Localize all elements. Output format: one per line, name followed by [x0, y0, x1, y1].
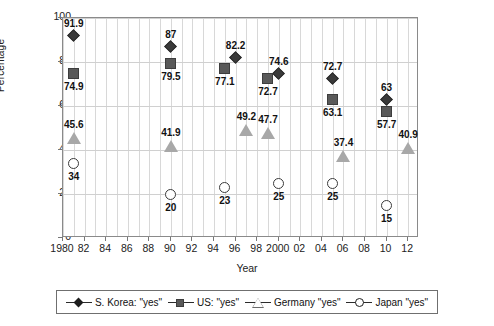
x-axis-tick-mark — [148, 237, 149, 241]
legend-label: Germany "yes" — [274, 297, 341, 308]
x-axis-tick-mark — [321, 237, 322, 241]
data-point-label: 45.6 — [59, 119, 89, 130]
gridline-vertical — [106, 18, 107, 236]
gridline-vertical — [257, 18, 258, 236]
square-marker-icon — [68, 68, 79, 79]
circle-marker-icon — [219, 182, 230, 193]
circle-marker-icon — [68, 158, 79, 169]
data-point-circle — [381, 200, 392, 211]
data-point-circle — [327, 178, 338, 189]
gridline-vertical — [300, 18, 301, 236]
gridline-vertical-minor — [139, 18, 140, 236]
triangle-marker-icon — [164, 140, 178, 152]
data-point-circle — [273, 178, 284, 189]
data-point-label: 20 — [156, 202, 186, 213]
x-axis-tick-mark — [62, 237, 63, 241]
data-point-square — [262, 73, 273, 84]
diamond-marker-icon — [229, 51, 242, 64]
legend-item-us[interactable]: US: "yes" — [168, 296, 239, 308]
legend-label: US: "yes" — [197, 297, 239, 308]
gridline-horizontal — [63, 18, 417, 19]
x-axis-title: Year — [0, 262, 494, 274]
legend-item-japan[interactable]: Japan "yes" — [346, 296, 428, 308]
data-point-label: 25 — [318, 191, 348, 202]
data-point-label: 82.2 — [221, 40, 251, 51]
diamond-marker-icon — [272, 68, 285, 81]
chart-legend: S. Korea: "yes" US: "yes" Germany "yes" … — [56, 290, 438, 314]
diamond-marker-icon — [380, 93, 393, 106]
x-axis-tick-mark — [84, 237, 85, 241]
legend-item-germany[interactable]: Germany "yes" — [245, 296, 341, 308]
data-point-label: 87 — [156, 29, 186, 40]
legend-item-s-korea[interactable]: S. Korea: "yes" — [66, 296, 162, 308]
data-point-diamond — [69, 31, 78, 40]
gridline-vertical-minor — [203, 18, 204, 236]
gridline-vertical — [343, 18, 344, 236]
data-point-label: 57.7 — [372, 119, 402, 130]
gridline-vertical-minor — [333, 18, 334, 236]
triangle-marker-icon — [336, 150, 350, 162]
x-axis-tick-mark — [213, 237, 214, 241]
data-point-label: 77.1 — [210, 76, 240, 87]
data-point-diamond — [231, 53, 240, 62]
x-axis-tick-mark — [278, 237, 279, 241]
data-point-label: 47.7 — [253, 114, 283, 125]
data-point-label: 37.4 — [328, 137, 358, 148]
x-axis-tick-mark — [256, 237, 257, 241]
data-point-label: 63 — [372, 82, 402, 93]
square-marker-icon — [165, 58, 176, 69]
data-point-diamond — [328, 74, 337, 83]
plot-area: 91.98782.274.672.76374.979.577.172.763.1… — [62, 17, 418, 237]
data-point-label: 41.9 — [156, 127, 186, 138]
y-axis-title: Percentage — [0, 39, 6, 92]
data-point-square — [165, 58, 176, 69]
square-marker-icon — [168, 296, 194, 308]
x-axis-tick-mark — [386, 237, 387, 241]
triangle-marker-icon — [401, 142, 415, 154]
legend-label: S. Korea: "yes" — [95, 297, 162, 308]
diamond-marker-icon — [66, 296, 92, 308]
circle-marker-icon — [273, 178, 284, 189]
data-point-label: 34 — [59, 171, 89, 182]
x-axis-tick-mark — [235, 237, 236, 241]
data-point-circle — [219, 182, 230, 193]
square-marker-icon — [381, 106, 392, 117]
diamond-marker-icon — [326, 72, 339, 85]
data-point-label: 74.6 — [264, 56, 294, 67]
x-axis-tick-mark — [170, 237, 171, 241]
triangle-marker-icon — [67, 132, 81, 144]
gridline-horizontal — [63, 194, 417, 195]
x-axis-tick-mark — [407, 237, 408, 241]
data-point-square — [219, 63, 230, 74]
square-marker-icon — [219, 63, 230, 74]
gridline-vertical-minor — [117, 18, 118, 236]
data-point-label: 74.9 — [59, 81, 89, 92]
data-point-label: 63.1 — [318, 107, 348, 118]
circle-marker-icon — [327, 178, 338, 189]
gridline-vertical-minor — [95, 18, 96, 236]
data-point-diamond — [166, 42, 175, 51]
data-point-square — [381, 106, 392, 117]
gridline-vertical — [192, 18, 193, 236]
square-marker-icon — [327, 94, 338, 105]
gridline-vertical-minor — [354, 18, 355, 236]
data-point-label: 79.5 — [156, 71, 186, 82]
gridline-horizontal — [63, 150, 417, 151]
circle-marker-icon — [346, 296, 372, 308]
circle-marker-icon — [165, 189, 176, 200]
gridline-vertical-minor — [290, 18, 291, 236]
circle-marker-icon — [381, 200, 392, 211]
x-axis-tick-mark — [364, 237, 365, 241]
x-axis-tick-mark — [299, 237, 300, 241]
diamond-marker-icon — [165, 40, 178, 53]
gridline-vertical — [149, 18, 150, 236]
legend-label: Japan "yes" — [375, 297, 428, 308]
gridline-horizontal — [63, 62, 417, 63]
diamond-marker-icon — [67, 29, 80, 42]
data-point-label: 15 — [372, 213, 402, 224]
data-point-label: 40.9 — [393, 129, 423, 140]
gridline-horizontal — [63, 106, 417, 107]
data-point-square — [327, 94, 338, 105]
data-point-diamond — [274, 69, 283, 78]
square-marker-icon — [262, 73, 273, 84]
